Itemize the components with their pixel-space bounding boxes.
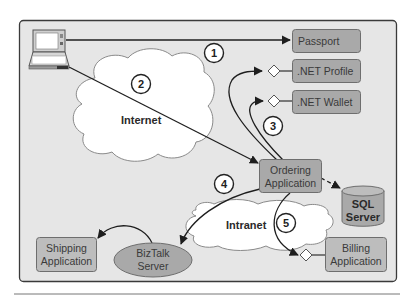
laptop-icon [29,30,69,69]
svg-text:1: 1 [211,47,217,59]
shipping-application-node: Shipping Application [37,238,97,272]
step-4-badge: 4 [215,175,234,194]
step-1-badge: 1 [205,44,224,63]
svg-text:5: 5 [283,217,289,229]
svg-text:Billing: Billing [342,242,370,254]
step-3-badge: 3 [264,117,283,136]
billing-application-node: Billing Application [326,238,387,272]
svg-text:Server: Server [138,260,169,272]
ordering-application-node: Ordering Application [260,160,322,193]
architecture-diagram: Internet Intranet Passport .NET Profile [0,0,412,298]
svg-text:4: 4 [221,178,228,190]
biztalk-server-node: BizTalk Server [114,243,192,277]
net-wallet-node: .NET Wallet [293,91,361,114]
svg-text:BizTalk: BizTalk [136,247,170,259]
svg-text:Ordering: Ordering [270,164,311,176]
svg-text:Shipping: Shipping [46,242,87,254]
svg-text:3: 3 [270,120,276,132]
svg-text:Application: Application [330,255,382,267]
svg-text:Passport: Passport [298,35,340,47]
intranet-label: Intranet [226,219,267,231]
svg-text:.NET Wallet: .NET Wallet [297,96,353,108]
step-2-badge: 2 [132,75,151,94]
passport-node: Passport [293,30,361,53]
svg-text:Application: Application [265,177,317,189]
svg-text:Application: Application [41,255,93,267]
step-5-badge: 5 [277,214,296,233]
svg-text:.NET Profile: .NET Profile [297,65,354,77]
svg-text:SQL: SQL [352,198,375,210]
sql-server-node: SQL Server [342,186,384,226]
internet-label: Internet [121,114,162,126]
svg-text:Server: Server [346,211,381,223]
svg-text:2: 2 [138,78,144,90]
net-profile-node: .NET Profile [293,60,361,83]
